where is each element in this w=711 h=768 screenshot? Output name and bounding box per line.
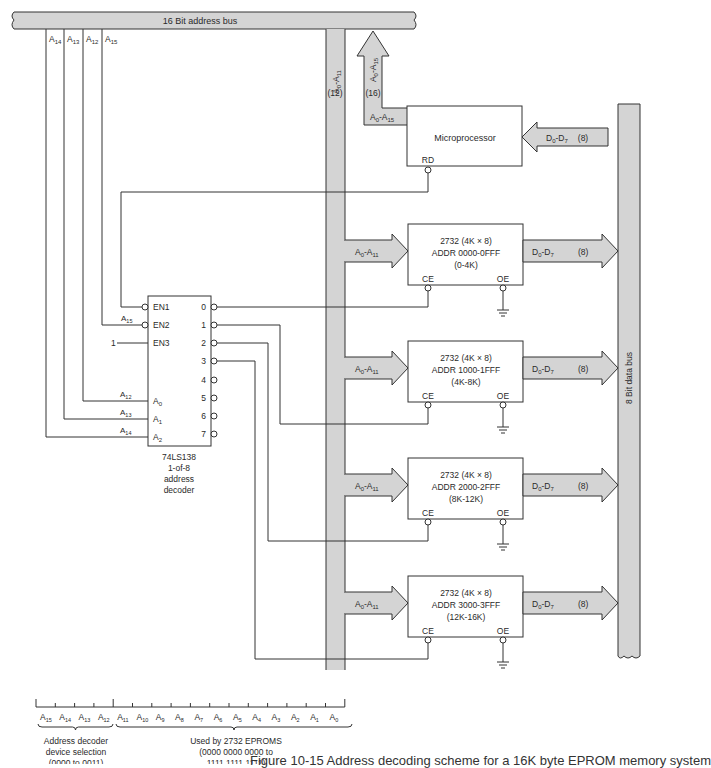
svg-text:EN3: EN3: [153, 338, 170, 348]
svg-text:A6: A6: [214, 712, 223, 723]
svg-text:5: 5: [201, 393, 206, 403]
svg-text:(4K-8K): (4K-8K): [451, 377, 480, 387]
svg-text:device selection: device selection: [46, 747, 107, 757]
eprom-address-branch: A0-A11 (12): [326, 29, 345, 670]
svg-text:A11: A11: [117, 712, 128, 723]
svg-text:CE: CE: [422, 274, 434, 284]
svg-text:0: 0: [201, 302, 206, 312]
eprom-2: A0-A112732 (4K × 8)ADDR 1000-1FFF(4K-8K)…: [344, 341, 618, 433]
svg-text:OE: OE: [497, 274, 510, 284]
svg-text:EN2: EN2: [153, 320, 170, 330]
svg-text:A15: A15: [121, 314, 132, 324]
svg-text:ADDR 1000-1FFF: ADDR 1000-1FFF: [432, 365, 501, 375]
svg-text:6: 6: [201, 411, 206, 421]
svg-text:(0000 to 0011): (0000 to 0011): [49, 758, 104, 764]
svg-text:A12: A12: [98, 712, 110, 723]
svg-text:A5: A5: [233, 712, 242, 723]
svg-text:2732 (4K × 8): 2732 (4K × 8): [440, 588, 492, 598]
cpu-address-branch: A0-A15 (16) A0-A15: [357, 31, 408, 125]
svg-text:A13: A13: [120, 408, 131, 418]
figure-caption: Figure 10-15 Address decoding scheme for…: [250, 753, 711, 768]
svg-text:(8): (8): [578, 364, 589, 374]
data-bus-label: 8 Bit data bus: [624, 352, 634, 404]
svg-text:ADDR 2000-2FFF: ADDR 2000-2FFF: [432, 482, 501, 492]
svg-text:2732 (4K × 8): 2732 (4K × 8): [440, 236, 492, 246]
svg-text:(12K-16K): (12K-16K): [447, 612, 486, 622]
svg-text:(8): (8): [578, 247, 589, 257]
cpu-data-arrow: D0-D7(8): [522, 122, 608, 152]
microprocessor-block: Microprocessor RD: [407, 106, 522, 173]
eprom-branch-width: (12): [327, 88, 342, 98]
svg-text:OE: OE: [497, 391, 510, 401]
eprom-4: A0-A112732 (4K × 8)ADDR 3000-3FFF(12K-16…: [344, 576, 618, 668]
svg-text:A2: A2: [291, 712, 300, 723]
svg-text:CE: CE: [422, 508, 434, 518]
decoder-desc-2: address: [164, 474, 194, 484]
line-label-a14: A14: [49, 34, 62, 45]
address-line-wires: A14 A13 A12 A15: [46, 29, 148, 437]
svg-text:ADDR 3000-3FFF: ADDR 3000-3FFF: [432, 600, 501, 610]
svg-text:2732 (4K × 8): 2732 (4K × 8): [440, 470, 492, 480]
address-bus: 16 Bit address bus: [12, 12, 416, 29]
svg-text:A0: A0: [330, 712, 339, 723]
svg-text:A12: A12: [120, 390, 131, 400]
svg-text:A14: A14: [59, 712, 71, 723]
svg-text:OE: OE: [497, 626, 510, 636]
svg-text:A1: A1: [310, 712, 319, 723]
svg-text:4: 4: [201, 375, 206, 385]
svg-text:1: 1: [111, 338, 116, 348]
eprom-blocks: A0-A112732 (4K × 8)ADDR 0000-0FFF(0-4K)C…: [344, 224, 618, 668]
address-bus-label: 16 Bit address bus: [163, 16, 238, 26]
svg-text:A8: A8: [175, 712, 184, 723]
line-label-a13: A13: [67, 34, 80, 45]
svg-text:3: 3: [201, 356, 206, 366]
svg-text:A3: A3: [272, 712, 281, 723]
svg-text:(8): (8): [578, 481, 589, 491]
line-label-a15: A15: [105, 34, 118, 45]
svg-text:1: 1: [201, 320, 206, 330]
svg-text:ADDR 0000-0FFF: ADDR 0000-0FFF: [432, 248, 501, 258]
microprocessor-title: Microprocessor: [434, 133, 496, 143]
svg-text:EN1: EN1: [153, 302, 170, 312]
svg-text:Address decoder: Address decoder: [44, 736, 108, 746]
svg-text:2732 (4K × 8): 2732 (4K × 8): [440, 353, 492, 363]
eprom-1: A0-A112732 (4K × 8)ADDR 0000-0FFF(0-4K)C…: [344, 224, 618, 316]
line-label-a12: A12: [86, 34, 99, 45]
decoder-desc-3: decoder: [164, 485, 195, 495]
svg-text:7: 7: [201, 429, 206, 439]
svg-text:A9: A9: [156, 712, 165, 723]
svg-text:CE: CE: [422, 626, 434, 636]
svg-text:(8): (8): [578, 599, 589, 609]
data-bus: 8 Bit data bus: [618, 104, 640, 658]
svg-text:(8K-12K): (8K-12K): [449, 494, 483, 504]
svg-text:Used by 2732 EPROMS: Used by 2732 EPROMS: [190, 736, 282, 746]
svg-text:A10: A10: [137, 712, 149, 723]
svg-text:(0-4K): (0-4K): [454, 260, 478, 270]
svg-text:A7: A7: [194, 712, 203, 723]
decoder-part-number: 74LS138: [162, 452, 196, 462]
svg-text:A4: A4: [252, 712, 261, 723]
svg-text:CE: CE: [422, 391, 434, 401]
svg-text:A14: A14: [120, 426, 131, 436]
svg-text:A13: A13: [79, 712, 91, 723]
decoder-desc-1: 1-of-8: [168, 463, 190, 473]
decoder-block: EN1 EN2 EN3 A0 A1 A2 A15 1 A12 A13 A14 0…: [111, 296, 217, 495]
cpu-branch-width: (16): [365, 88, 380, 98]
svg-text:OE: OE: [497, 508, 510, 518]
svg-text:2: 2: [201, 338, 206, 348]
rd-pin-label: RD: [422, 155, 434, 165]
svg-text:A15: A15: [40, 712, 52, 723]
eprom-3: A0-A112732 (4K × 8)ADDR 2000-2FFF(8K-12K…: [344, 458, 618, 550]
rd-inversion-bubble: [425, 167, 431, 173]
